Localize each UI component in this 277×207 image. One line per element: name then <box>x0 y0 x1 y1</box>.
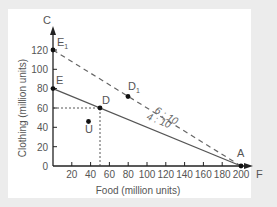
label-e1: E1 <box>57 36 68 50</box>
x-tick-label: 140 <box>176 169 193 180</box>
y-tick-label: 40 <box>37 122 49 133</box>
y-tick-label: 100 <box>31 64 48 75</box>
y-axis-letter: C <box>43 14 51 26</box>
y-tick-label: 0 <box>42 161 48 172</box>
x-tick-label: 160 <box>195 169 212 180</box>
point-e <box>51 86 56 91</box>
y-tick-label: 120 <box>31 45 48 56</box>
label-d: D <box>102 94 110 106</box>
x-tick-label: 180 <box>214 169 231 180</box>
label-a: A <box>237 147 245 159</box>
x-tick-label: 60 <box>104 169 116 180</box>
y-axis-arrow-icon <box>50 26 56 35</box>
y-tick-label: 60 <box>37 103 49 114</box>
x-axis-letter: F <box>256 168 263 180</box>
x-tick-label: 100 <box>139 169 156 180</box>
x-tick-label: 20 <box>66 169 78 180</box>
chart-panel: 0 20 40 60 80 100 120 20 40 60 80 100 12… <box>0 0 277 207</box>
point-a <box>239 164 244 169</box>
x-tick-label: 200 <box>233 169 250 180</box>
point-e1 <box>51 48 56 53</box>
x-tick-label: 80 <box>123 169 135 180</box>
x-tick-label: 120 <box>157 169 174 180</box>
y-tick-label: 20 <box>37 142 49 153</box>
point-d1 <box>126 94 131 99</box>
point-d <box>98 106 103 111</box>
label-d1: D1 <box>128 80 140 94</box>
x-axis-title: Food (million units) <box>96 185 180 196</box>
solid-line-4-10 <box>53 89 241 166</box>
label-u: U <box>85 123 93 135</box>
label-e: E <box>56 74 63 86</box>
x-tick-label: 40 <box>85 169 97 180</box>
y-tick-label: 80 <box>37 83 49 94</box>
chart-svg: 0 20 40 60 80 100 120 20 40 60 80 100 12… <box>0 0 277 207</box>
y-axis-title: Clothing (million units) <box>17 59 28 157</box>
